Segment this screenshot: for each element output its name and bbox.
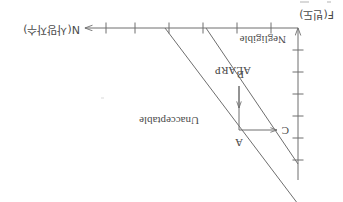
scan-speck xyxy=(300,1,309,3)
point-label-b: B xyxy=(237,69,244,80)
zone-label-negligible: Negligible xyxy=(240,34,286,45)
x-axis-label: N(사망자수) xyxy=(23,24,80,35)
fn-curve-figure: N(사망자수) F(빈도) Unacceptable ALARP Negligi… xyxy=(0,0,343,202)
scan-speck xyxy=(327,1,331,3)
figure-screenshot: N(사망자수) F(빈도) Unacceptable ALARP Negligi… xyxy=(0,0,343,202)
zone-label-unacceptable: Unacceptable xyxy=(139,115,199,126)
zone-label-alarp: ALARP xyxy=(215,65,251,76)
point-label-a: A xyxy=(235,137,243,148)
point-label-c: C xyxy=(282,125,289,136)
fn-curve-text-layer: N(사망자수) F(빈도) Unacceptable ALARP Negligi… xyxy=(0,0,343,202)
scan-speck xyxy=(101,97,104,99)
y-axis-label: F(빈도) xyxy=(299,9,334,20)
